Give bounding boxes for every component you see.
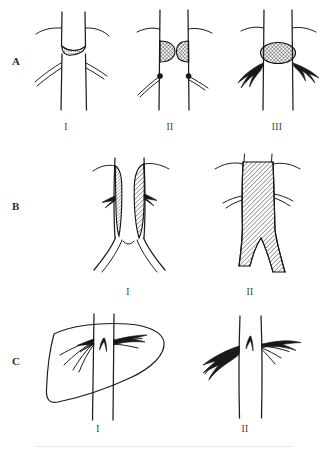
figure-canvas: A B C I <box>0 0 328 450</box>
row-label-a: A <box>12 55 20 67</box>
row-label-c: C <box>12 355 20 367</box>
panel-b1-numeral: I <box>116 287 140 297</box>
panel-a1-diagram <box>28 6 120 118</box>
mural-thrombus-left <box>115 166 121 236</box>
occluding-plaque <box>261 43 296 64</box>
panel-a3-diagram <box>232 6 326 118</box>
panel-c1-numeral: I <box>86 424 110 434</box>
panel-a2-diagram <box>130 6 222 118</box>
plaque-nodule-right <box>186 73 191 78</box>
panel-c2-numeral: II <box>232 424 258 434</box>
panel-b2-numeral: II <box>238 287 262 297</box>
panel-b2-diagram <box>203 152 307 284</box>
panel-c2-diagram <box>188 312 312 424</box>
panel-b1-diagram <box>82 152 182 284</box>
branch-thrombus-left <box>203 346 240 379</box>
total-occlusion-body <box>239 162 285 272</box>
panel-c1-diagram <box>32 312 168 424</box>
panel-a1-numeral: I <box>54 122 78 132</box>
bottom-rule-artifact <box>34 446 292 447</box>
panel-a3-numeral: III <box>264 122 290 132</box>
mural-thrombus-right <box>134 164 144 238</box>
panel-a2-numeral: II <box>158 122 182 132</box>
row-label-b: B <box>12 200 20 212</box>
